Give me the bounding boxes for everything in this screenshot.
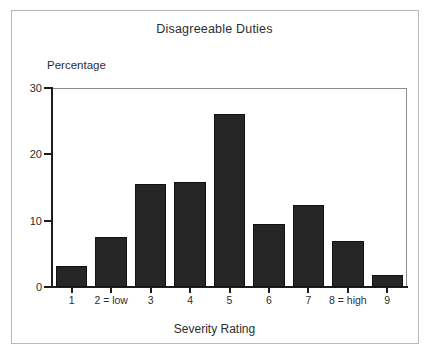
bar xyxy=(214,114,246,287)
x-axis-tick-label: 3 xyxy=(148,294,154,306)
y-axis-tick-label: 30 xyxy=(2,82,42,94)
bar xyxy=(372,275,404,287)
y-axis-tick-label: 10 xyxy=(2,215,42,227)
x-axis-tick-label: 2 = low xyxy=(94,294,128,306)
bar xyxy=(174,182,206,287)
bar xyxy=(332,241,364,287)
y-axis-label: Percentage xyxy=(47,59,106,71)
x-axis-tick xyxy=(229,287,231,293)
x-axis-tick-label: 1 xyxy=(69,294,75,306)
y-axis-tick xyxy=(44,87,53,89)
x-axis-tick xyxy=(150,287,152,293)
y-axis-tick xyxy=(44,286,53,288)
x-axis-label: Severity Rating xyxy=(0,322,429,336)
x-axis-tick xyxy=(268,287,270,293)
x-axis-tick-label: 9 xyxy=(384,294,390,306)
x-axis-tick xyxy=(110,287,112,293)
x-axis-tick-label: 7 xyxy=(305,294,311,306)
y-axis-tick xyxy=(44,153,53,155)
y-axis-spine xyxy=(51,87,53,288)
chart-title: Disagreeable Duties xyxy=(0,22,429,36)
chart-figure: Disagreeable Duties Percentage 0102030 1… xyxy=(0,0,429,358)
x-axis-tick-label: 4 xyxy=(187,294,193,306)
y-axis-tick-labels: 0102030 xyxy=(0,0,42,358)
bar xyxy=(56,266,88,287)
bar xyxy=(95,237,127,287)
x-axis-tick xyxy=(71,287,73,293)
y-axis-tick xyxy=(44,220,53,222)
y-axis-tick-label: 0 xyxy=(2,281,42,293)
x-axis-tick xyxy=(189,287,191,293)
y-axis-tick-label: 20 xyxy=(2,148,42,160)
bar xyxy=(135,184,167,287)
x-axis-tick-label: 6 xyxy=(266,294,272,306)
x-axis-tick xyxy=(386,287,388,293)
x-axis-tick-label: 8 = high xyxy=(329,294,367,306)
bar xyxy=(293,205,325,287)
x-axis-tick xyxy=(347,287,349,293)
x-axis-tick-label: 5 xyxy=(227,294,233,306)
x-axis-tick xyxy=(307,287,309,293)
bar xyxy=(253,224,285,287)
